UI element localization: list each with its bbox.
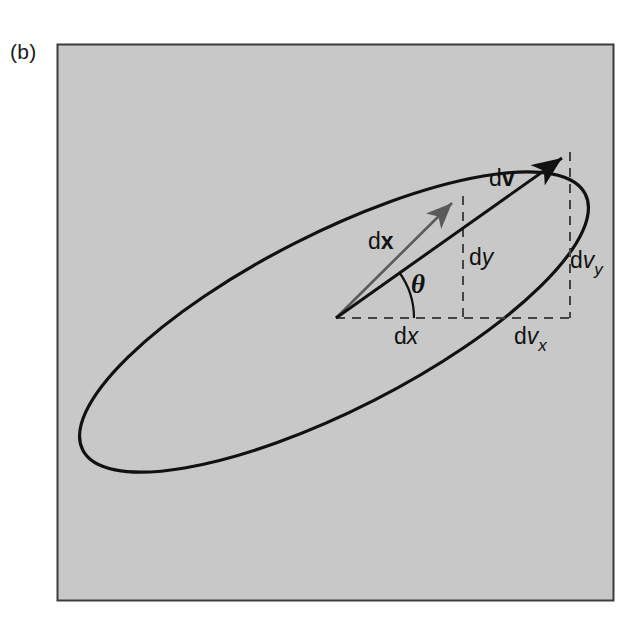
label-vector-dv-prefix: d (489, 165, 502, 191)
label-component-dvx-subscript: x (537, 336, 547, 355)
label-vector-dx-symbol: x (381, 228, 394, 254)
label-component-dvy-prefix: d (570, 247, 583, 273)
label-vector-dx: dx (368, 228, 394, 254)
label-vector-dx-prefix: d (368, 228, 381, 254)
diagram-canvas: dx dv dx dy dvx dvy θ (0, 0, 642, 632)
label-component-dy-symbol: y (480, 244, 495, 270)
label-component-dvy-subscript: y (593, 260, 604, 279)
label-component-dx-symbol: x (406, 323, 420, 349)
figure-root: (b) dx dv dx (0, 0, 642, 632)
label-vector-dv-symbol: v (502, 165, 515, 191)
label-component-dvx-prefix: d (514, 323, 527, 349)
label-component-dx-prefix: d (394, 323, 407, 349)
label-angle-theta: θ (411, 269, 425, 299)
label-component-dy-prefix: d (469, 244, 482, 270)
label-component-dx: dx (394, 323, 420, 349)
label-vector-dv: dv (489, 165, 515, 191)
label-component-dy: dy (469, 244, 495, 270)
